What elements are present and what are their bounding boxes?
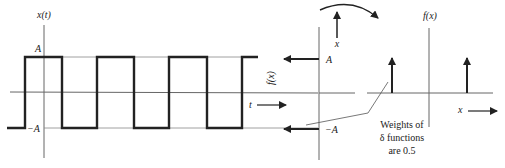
- level-A-label: A: [34, 43, 42, 54]
- level-negA-label: −A: [27, 123, 41, 134]
- annotation-line3: are 0.5: [388, 145, 415, 156]
- rotated-fx-label: f(x): [265, 70, 277, 85]
- x-of-t-label: x(t): [36, 9, 52, 21]
- amplitude-projection: A −A f(x) x: [265, 5, 378, 160]
- t-axis: [10, 92, 318, 93]
- annotation-line2: δ functions: [380, 132, 425, 143]
- diagram-canvas: x(t) A −A t A −A f(x) x f(x) x Weights o…: [0, 0, 505, 168]
- projection-A-label: A: [325, 54, 333, 65]
- x-axis-label: x: [457, 104, 463, 115]
- t-label: t: [249, 99, 252, 110]
- rotation-arrow: [320, 5, 378, 18]
- annotation-line1: Weights of: [380, 119, 424, 130]
- fx-label: f(x): [423, 10, 438, 22]
- projection-negA-label: −A: [325, 124, 339, 135]
- x-up-label: x: [334, 38, 340, 49]
- pdf-plot: f(x) x: [367, 10, 497, 127]
- annotation-leader-line: [306, 82, 388, 125]
